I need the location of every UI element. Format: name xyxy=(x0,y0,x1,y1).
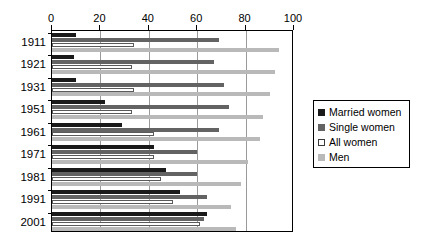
bar-men xyxy=(52,70,275,74)
x-tick-mark xyxy=(196,25,197,30)
bar-all xyxy=(52,65,132,69)
bar-married xyxy=(52,100,105,104)
y-axis-category-label: 1981 xyxy=(20,172,46,182)
bar-single xyxy=(52,195,207,199)
x-tick-label: 100 xyxy=(284,12,302,24)
bar-single xyxy=(52,83,224,87)
year-group: 1911 xyxy=(52,31,294,53)
legend-item-single[interactable]: Single women xyxy=(318,120,406,135)
year-group: 1981 xyxy=(52,166,294,188)
legend-label: Married women xyxy=(329,107,401,118)
legend-item-all[interactable]: All women xyxy=(318,135,406,150)
x-axis-tick-labels: 020406080100 xyxy=(0,12,430,28)
chart-legend: Married womenSingle womenAll womenMen xyxy=(313,100,410,168)
y-axis-category-label: 1911 xyxy=(21,37,46,47)
bar-men xyxy=(52,205,231,209)
bar-single xyxy=(52,38,219,42)
x-tick-label: 80 xyxy=(238,12,250,24)
bar-single xyxy=(52,105,229,109)
legend-swatch-all-icon xyxy=(318,139,325,146)
bar-single xyxy=(52,217,204,221)
y-axis-category-label: 1991 xyxy=(20,194,46,204)
legend-swatch-single-icon xyxy=(318,124,325,131)
bar-married xyxy=(52,168,166,172)
x-tick-mark xyxy=(293,25,294,30)
bar-men xyxy=(52,115,263,119)
x-tick-mark xyxy=(51,25,52,30)
legend-item-married[interactable]: Married women xyxy=(318,105,406,120)
legend-label: All women xyxy=(329,137,377,148)
y-axis-category-label: 2001 xyxy=(20,217,46,227)
y-axis-category-label: 1921 xyxy=(20,59,46,69)
bar-men xyxy=(52,92,270,96)
x-tick-mark xyxy=(148,25,149,30)
legend-label: Men xyxy=(329,152,349,163)
bar-men xyxy=(52,160,248,164)
bar-single xyxy=(52,172,197,176)
y-axis-category-label: 1971 xyxy=(20,149,46,159)
bar-men xyxy=(52,227,236,231)
bar-married xyxy=(52,78,76,82)
legend-swatch-married-icon xyxy=(318,109,325,116)
y-axis-category-label: 1931 xyxy=(20,82,46,92)
x-tick-label: 0 xyxy=(48,12,54,24)
year-group: 1931 xyxy=(52,76,294,98)
year-group: 1971 xyxy=(52,143,294,165)
legend-swatch-men-icon xyxy=(318,154,325,161)
plot-area: 191119211931195119611971198119912001 xyxy=(51,30,293,232)
year-group: 1991 xyxy=(52,188,294,210)
year-group: 1961 xyxy=(52,121,294,143)
bar-single xyxy=(52,60,214,64)
bar-married xyxy=(52,123,122,127)
bar-married xyxy=(52,33,76,37)
bar-men xyxy=(52,48,279,52)
bar-all xyxy=(52,43,134,47)
bar-all xyxy=(52,110,132,114)
bar-chart: 020406080100 191119211931195119611971198… xyxy=(0,0,430,248)
year-group: 1951 xyxy=(52,98,294,120)
y-axis-category-label: 1961 xyxy=(20,127,46,137)
legend-item-men[interactable]: Men xyxy=(318,150,406,165)
bar-all xyxy=(52,177,161,181)
bar-all xyxy=(52,222,200,226)
year-group: 1921 xyxy=(52,53,294,75)
bar-married xyxy=(52,212,207,216)
legend-label: Single women xyxy=(329,122,395,133)
x-tick-label: 20 xyxy=(93,12,105,24)
bar-men xyxy=(52,137,260,141)
y-axis-category-label: 1951 xyxy=(20,104,46,114)
bar-single xyxy=(52,150,197,154)
bar-all xyxy=(52,200,173,204)
bar-married xyxy=(52,145,154,149)
x-tick-mark xyxy=(99,25,100,30)
bar-married xyxy=(52,55,74,59)
bar-single xyxy=(52,128,219,132)
bar-men xyxy=(52,182,241,186)
x-tick-mark xyxy=(245,25,246,30)
x-tick-label: 60 xyxy=(190,12,202,24)
x-tick-label: 40 xyxy=(142,12,154,24)
bar-all xyxy=(52,88,134,92)
bar-all xyxy=(52,132,154,136)
bar-all xyxy=(52,155,154,159)
year-group: 2001 xyxy=(52,211,294,233)
bar-married xyxy=(52,190,180,194)
